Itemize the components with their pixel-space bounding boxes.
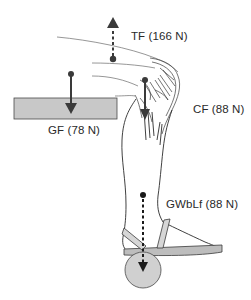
tf-force-arrow [107,17,119,62]
tf-force-label: TF (166 N) [131,30,188,42]
gwblf-force-label: GWbLf (88 N) [166,198,238,210]
sandal [122,219,222,256]
tf-origin-dot [110,56,116,62]
gravity-block [14,98,117,119]
cf-force-label: CF (88 N) [193,103,244,115]
gf-force-label: GF (78 N) [48,124,100,136]
knee-outline [135,58,180,134]
gwblf-origin-dot [140,192,146,198]
sandal-front-strap [157,219,170,248]
arrowhead-up-icon [107,17,119,28]
force-diagram [0,0,251,300]
lower-leg-outline [122,99,172,232]
